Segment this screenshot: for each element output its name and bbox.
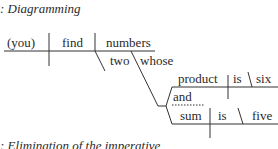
word-clause1-subject: product xyxy=(178,72,218,85)
word-object: numbers xyxy=(106,36,151,49)
word-clause2-complement: five xyxy=(252,109,272,122)
word-clause2-subject: sum xyxy=(180,109,202,122)
word-modifier-two: two xyxy=(110,54,130,67)
word-verb: find xyxy=(62,36,83,49)
word-subject: (you) xyxy=(7,36,35,49)
section-heading-elimination: : Elimination of the imperative xyxy=(0,138,160,149)
word-clause1-verb: is xyxy=(233,72,242,85)
word-conjunction: and xyxy=(173,90,192,103)
word-clause1-complement: six xyxy=(256,72,271,85)
word-modifier-whose: whose xyxy=(140,54,173,67)
word-clause2-verb: is xyxy=(218,109,227,122)
